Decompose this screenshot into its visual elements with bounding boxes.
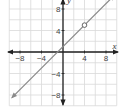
axes — [8, 0, 118, 105]
coordinate-plane-chart: −8−44884−4−8 x y — [0, 0, 123, 112]
y-axis-label: y — [66, 0, 71, 5]
x-axis-label: x — [112, 41, 117, 51]
open-circle-point — [82, 23, 87, 28]
x-tick-label: 4 — [82, 54, 87, 63]
x-tick-label: 8 — [104, 54, 109, 63]
x-tick-label: −8 — [15, 54, 25, 63]
y-tick-label: 4 — [56, 27, 61, 36]
y-tick-label: −8 — [51, 91, 61, 100]
x-tick-label: −4 — [37, 54, 47, 63]
y-tick-label: 8 — [56, 5, 61, 14]
y-tick-label: −4 — [51, 70, 61, 79]
